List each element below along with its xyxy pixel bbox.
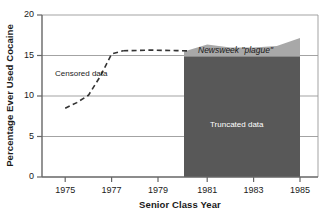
x-tick-label-1983: 1983 (234, 185, 274, 195)
annotation-censored-data: Censored data (55, 69, 107, 78)
y-tick-label-0: 0 (10, 171, 34, 181)
y-tick-label-15: 15 (10, 50, 34, 60)
y-tick-label-20: 20 (10, 9, 34, 19)
truncated-data-block (184, 56, 300, 177)
x-tick-label-1975: 1975 (45, 185, 85, 195)
chart-figure: Percentage Ever Used Cocaine Senior Clas… (0, 0, 328, 218)
x-tick-label-1979: 1979 (138, 185, 178, 195)
y-tick-label-5: 5 (10, 131, 34, 141)
x-tick-label-1977: 1977 (92, 185, 132, 195)
y-tick-label-10: 10 (10, 90, 34, 100)
x-tick-label-1981: 1981 (187, 185, 227, 195)
x-axis-title: Senior Class Year (42, 199, 318, 210)
annotation-newsweek-plague: Newsweek "plague" (198, 45, 273, 55)
x-tick-label-1985: 1985 (280, 185, 320, 195)
annotation-truncated-data: Truncated data (210, 120, 264, 129)
